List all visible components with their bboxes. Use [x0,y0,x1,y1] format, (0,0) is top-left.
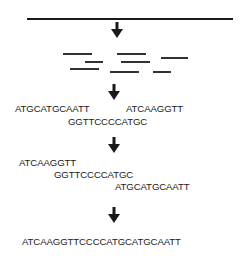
arrow-icon [108,207,120,223]
aligned-sequence: ATGCATGCAATT [115,182,189,192]
arrow-icon [111,22,123,38]
aligned-sequence: GGTTCCCCATGC [54,170,133,180]
arrow-icon [108,84,120,100]
aligned-sequence: ATCAAGGTT [19,158,76,168]
assembled-sequence: ATCAAGGTTCCCCATGCATGCAATT [22,237,181,247]
arrow-icon [108,137,120,153]
fragments [63,54,188,72]
read-sequence: GGTTCCCCATGC [68,117,147,127]
read-sequence: ATGCATGCAATT [15,104,89,114]
read-sequence: ATCAAGGTT [126,104,183,114]
diagram [0,0,247,256]
